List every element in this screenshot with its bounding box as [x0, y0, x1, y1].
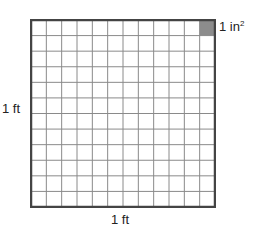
side-length-label-left: 1 ft	[2, 102, 20, 115]
unit-exponent-text: 2	[240, 19, 244, 28]
unit-base-text: 1 in	[219, 19, 240, 34]
square-foot-grid	[30, 19, 216, 208]
square-inch-label: 1 in2	[219, 20, 244, 33]
shaded-square-inch	[200, 20, 215, 36]
side-length-label-bottom: 1 ft	[111, 213, 129, 226]
